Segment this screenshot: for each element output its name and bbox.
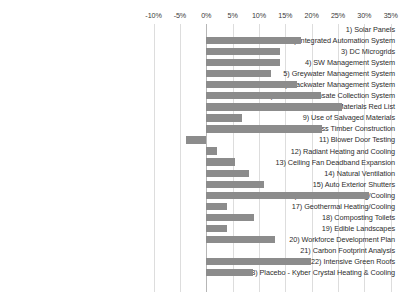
- bar-rows: 1) Solar Panels2) Integrated Automation …: [0, 24, 399, 292]
- bar: [206, 114, 242, 121]
- x-tick-label: 30%: [357, 11, 371, 20]
- bar-track: [0, 157, 399, 168]
- bar: [206, 158, 235, 165]
- x-tick-label: 10%: [252, 11, 266, 20]
- bar-track: [0, 256, 399, 267]
- bar-track: [0, 190, 399, 201]
- bar-track: [0, 123, 399, 134]
- bar-track: [0, 134, 399, 145]
- bar: [186, 136, 207, 143]
- bar: [206, 236, 275, 243]
- bar: [206, 81, 297, 88]
- bar-row: 22) Intensive Green Roofs: [0, 256, 399, 267]
- bar: [206, 59, 280, 66]
- bar: [206, 181, 264, 188]
- bar: [206, 48, 280, 55]
- bar: [206, 170, 249, 177]
- bar-chart: -10%-5%0%5%10%15%20%25%30%35% 1) Solar P…: [0, 0, 399, 296]
- bar-row: 4) SW Management System: [0, 57, 399, 68]
- x-tick-label: -10%: [145, 11, 161, 20]
- bar: [206, 258, 310, 265]
- bar-row: 15) Auto Exterior Shutters: [0, 179, 399, 190]
- bar-track: [0, 234, 399, 245]
- x-tick-label: 20%: [305, 11, 319, 20]
- bar-row: 2) Integrated Automation System: [0, 35, 399, 46]
- bar: [206, 147, 217, 154]
- bar-row: 21) Carbon Footprint Analysis: [0, 245, 399, 256]
- x-tick-label: 5%: [227, 11, 237, 20]
- x-tick-label: 35%: [384, 11, 398, 20]
- bar-track: [0, 57, 399, 68]
- x-tick-label: 15%: [278, 11, 292, 20]
- bar-row: 3) DC Microgrids: [0, 46, 399, 57]
- x-tick-label: 0%: [201, 11, 211, 20]
- bar-row: 11) Blower Door Testing: [0, 134, 399, 145]
- bar-row: 13) Ceiling Fan Deadband Expansion: [0, 157, 399, 168]
- bar-row: 18) Composting Toilets: [0, 212, 399, 223]
- bar-row: 23) Placebo - Kyber Crystal Heating & Co…: [0, 267, 399, 278]
- bar: [206, 192, 369, 199]
- bar: [206, 269, 252, 276]
- bar-track: [0, 267, 399, 278]
- bar-row: 16) Chilled Beam Heating/Cooling: [0, 190, 399, 201]
- bar: [206, 70, 270, 77]
- bar-row: 8) Living Building Materials Red List: [0, 101, 399, 112]
- bar: [206, 225, 227, 232]
- bar: [206, 203, 227, 210]
- bar-row: 1) Solar Panels: [0, 24, 399, 35]
- bar: [206, 125, 322, 132]
- bar: [206, 103, 342, 110]
- bar-track: [0, 201, 399, 212]
- bar-track: [0, 168, 399, 179]
- bar-track: [0, 179, 399, 190]
- x-tick-label: -5%: [174, 11, 186, 20]
- x-tick-label: 25%: [331, 11, 345, 20]
- bar-track: [0, 101, 399, 112]
- bar-track: [0, 146, 399, 157]
- bar-track: [0, 223, 399, 234]
- bar-track: [0, 24, 399, 35]
- bar: [206, 214, 253, 221]
- bar-row: 17) Geothermal Heating/Cooling: [0, 201, 399, 212]
- bar-row: 7) HVAC Condensate Collection System: [0, 90, 399, 101]
- bar-track: [0, 79, 399, 90]
- bar-row: 20) Workforce Development Plan: [0, 234, 399, 245]
- bar-row: 19) Edible Landscapes: [0, 223, 399, 234]
- bar: [206, 37, 301, 44]
- bar-track: [0, 212, 399, 223]
- bar-track: [0, 90, 399, 101]
- bar-track: [0, 112, 399, 123]
- bar-track: [0, 46, 399, 57]
- bar-track: [0, 245, 399, 256]
- bar-row: 14) Natural Ventilation: [0, 168, 399, 179]
- bar: [206, 92, 320, 99]
- bar-row: 5) Greywater Management System: [0, 68, 399, 79]
- bar-track: [0, 68, 399, 79]
- bar-row: 6) Blackwater Management System: [0, 79, 399, 90]
- x-axis-tick-labels: -10%-5%0%5%10%15%20%25%30%35%: [0, 11, 399, 23]
- bar-row: 9) Use of Salvaged Materials: [0, 112, 399, 123]
- bar-track: [0, 35, 399, 46]
- plot-area: 1) Solar Panels2) Integrated Automation …: [0, 24, 399, 292]
- bar-row: 12) Radiant Heating and Cooling: [0, 146, 399, 157]
- bar-row: 10) Heavy Mass Timber Construction: [0, 123, 399, 134]
